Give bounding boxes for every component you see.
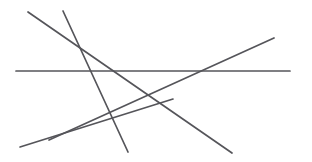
- line-figure-canvas: [0, 0, 312, 162]
- line-figure-svg: [0, 0, 312, 162]
